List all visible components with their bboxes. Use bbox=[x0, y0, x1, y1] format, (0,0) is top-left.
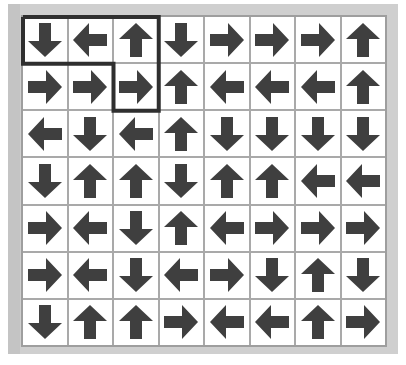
grid-cell[interactable] bbox=[114, 300, 158, 345]
arrow-right-icon bbox=[345, 210, 381, 246]
grid-cell[interactable] bbox=[69, 206, 113, 251]
arrow-up-icon bbox=[72, 304, 108, 340]
arrow-left-icon bbox=[300, 163, 336, 199]
arrow-down-icon bbox=[27, 22, 63, 58]
arrow-down-icon bbox=[118, 257, 154, 293]
grid-cell[interactable] bbox=[69, 253, 113, 298]
grid-cell[interactable] bbox=[342, 111, 386, 156]
arrow-up-icon bbox=[118, 304, 154, 340]
grid-cell[interactable] bbox=[69, 158, 113, 203]
grid-cell[interactable] bbox=[160, 111, 204, 156]
grid-cell[interactable] bbox=[342, 17, 386, 62]
arrow-down-icon bbox=[27, 304, 63, 340]
grid-cell[interactable] bbox=[251, 300, 295, 345]
arrow-up-icon bbox=[163, 116, 199, 152]
grid-cell[interactable] bbox=[23, 17, 67, 62]
arrow-right-icon bbox=[300, 22, 336, 58]
grid-cell[interactable] bbox=[296, 158, 340, 203]
grid-cell[interactable] bbox=[296, 253, 340, 298]
arrow-left-icon bbox=[27, 116, 63, 152]
arrow-up-icon bbox=[209, 163, 245, 199]
arrow-down-icon bbox=[163, 22, 199, 58]
grid-cell[interactable] bbox=[23, 206, 67, 251]
arrow-right-icon bbox=[254, 22, 290, 58]
grid-cell[interactable] bbox=[23, 64, 67, 109]
grid-cell[interactable] bbox=[160, 300, 204, 345]
arrow-up-icon bbox=[345, 69, 381, 105]
arrow-down-icon bbox=[72, 116, 108, 152]
grid-cell[interactable] bbox=[205, 111, 249, 156]
grid-cell[interactable] bbox=[205, 64, 249, 109]
grid-cell[interactable] bbox=[296, 17, 340, 62]
arrow-right-icon bbox=[118, 69, 154, 105]
arrow-left-icon bbox=[209, 210, 245, 246]
arrow-up-icon bbox=[300, 304, 336, 340]
grid-cell[interactable] bbox=[342, 206, 386, 251]
grid-cell[interactable] bbox=[114, 206, 158, 251]
arrow-left-icon bbox=[163, 257, 199, 293]
arrow-left-icon bbox=[72, 22, 108, 58]
grid-cell[interactable] bbox=[69, 64, 113, 109]
grid-cell[interactable] bbox=[205, 253, 249, 298]
arrow-right-icon bbox=[345, 304, 381, 340]
grid-cell[interactable] bbox=[69, 111, 113, 156]
grid-cell[interactable] bbox=[23, 300, 67, 345]
grid-cell[interactable] bbox=[23, 158, 67, 203]
grid-cell[interactable] bbox=[160, 253, 204, 298]
grid-cell[interactable] bbox=[205, 206, 249, 251]
grid-cell[interactable] bbox=[251, 17, 295, 62]
arrow-left-icon bbox=[209, 304, 245, 340]
grid-cell[interactable] bbox=[114, 158, 158, 203]
arrow-right-icon bbox=[163, 304, 199, 340]
arrow-left-icon bbox=[345, 163, 381, 199]
grid-cell[interactable] bbox=[69, 300, 113, 345]
arrow-up-icon bbox=[163, 69, 199, 105]
arrow-right-icon bbox=[27, 69, 63, 105]
arrow-left-icon bbox=[72, 257, 108, 293]
grid-cell[interactable] bbox=[205, 158, 249, 203]
grid-cell[interactable] bbox=[160, 17, 204, 62]
grid-cell[interactable] bbox=[296, 206, 340, 251]
grid-cell[interactable] bbox=[160, 158, 204, 203]
grid-cell[interactable] bbox=[205, 300, 249, 345]
grid-cell[interactable] bbox=[114, 64, 158, 109]
grid-cell[interactable] bbox=[251, 111, 295, 156]
grid-cell[interactable] bbox=[114, 253, 158, 298]
grid-cell[interactable] bbox=[342, 64, 386, 109]
grid-cell[interactable] bbox=[23, 111, 67, 156]
arrow-right-icon bbox=[72, 69, 108, 105]
arrow-right-icon bbox=[254, 210, 290, 246]
arrow-left-icon bbox=[254, 304, 290, 340]
grid-cell[interactable] bbox=[114, 111, 158, 156]
grid-cell[interactable] bbox=[342, 253, 386, 298]
arrow-down-icon bbox=[254, 257, 290, 293]
arrow-up-icon bbox=[254, 163, 290, 199]
grid-cell[interactable] bbox=[342, 300, 386, 345]
grid-cell[interactable] bbox=[296, 64, 340, 109]
grid-cell[interactable] bbox=[251, 253, 295, 298]
arrow-down-icon bbox=[163, 163, 199, 199]
arrow-up-icon bbox=[72, 163, 108, 199]
grid-cell[interactable] bbox=[296, 111, 340, 156]
arrow-up-icon bbox=[118, 163, 154, 199]
grid-cell[interactable] bbox=[160, 206, 204, 251]
grid-cell[interactable] bbox=[251, 64, 295, 109]
grid-cell[interactable] bbox=[23, 253, 67, 298]
arrow-right-icon bbox=[27, 257, 63, 293]
arrow-up-icon bbox=[118, 22, 154, 58]
arrow-up-icon bbox=[300, 257, 336, 293]
grid-cell[interactable] bbox=[296, 300, 340, 345]
grid-cell[interactable] bbox=[342, 158, 386, 203]
grid-cell[interactable] bbox=[114, 17, 158, 62]
grid-cell[interactable] bbox=[160, 64, 204, 109]
arrow-right-icon bbox=[209, 257, 245, 293]
grid-cell[interactable] bbox=[205, 17, 249, 62]
arrow-down-icon bbox=[118, 210, 154, 246]
arrow-left-icon bbox=[72, 210, 108, 246]
arrow-grid bbox=[23, 17, 385, 345]
grid-cell[interactable] bbox=[251, 206, 295, 251]
grid-cell[interactable] bbox=[69, 17, 113, 62]
grid-cell[interactable] bbox=[251, 158, 295, 203]
arrow-left-icon bbox=[254, 69, 290, 105]
arrow-up-icon bbox=[345, 22, 381, 58]
